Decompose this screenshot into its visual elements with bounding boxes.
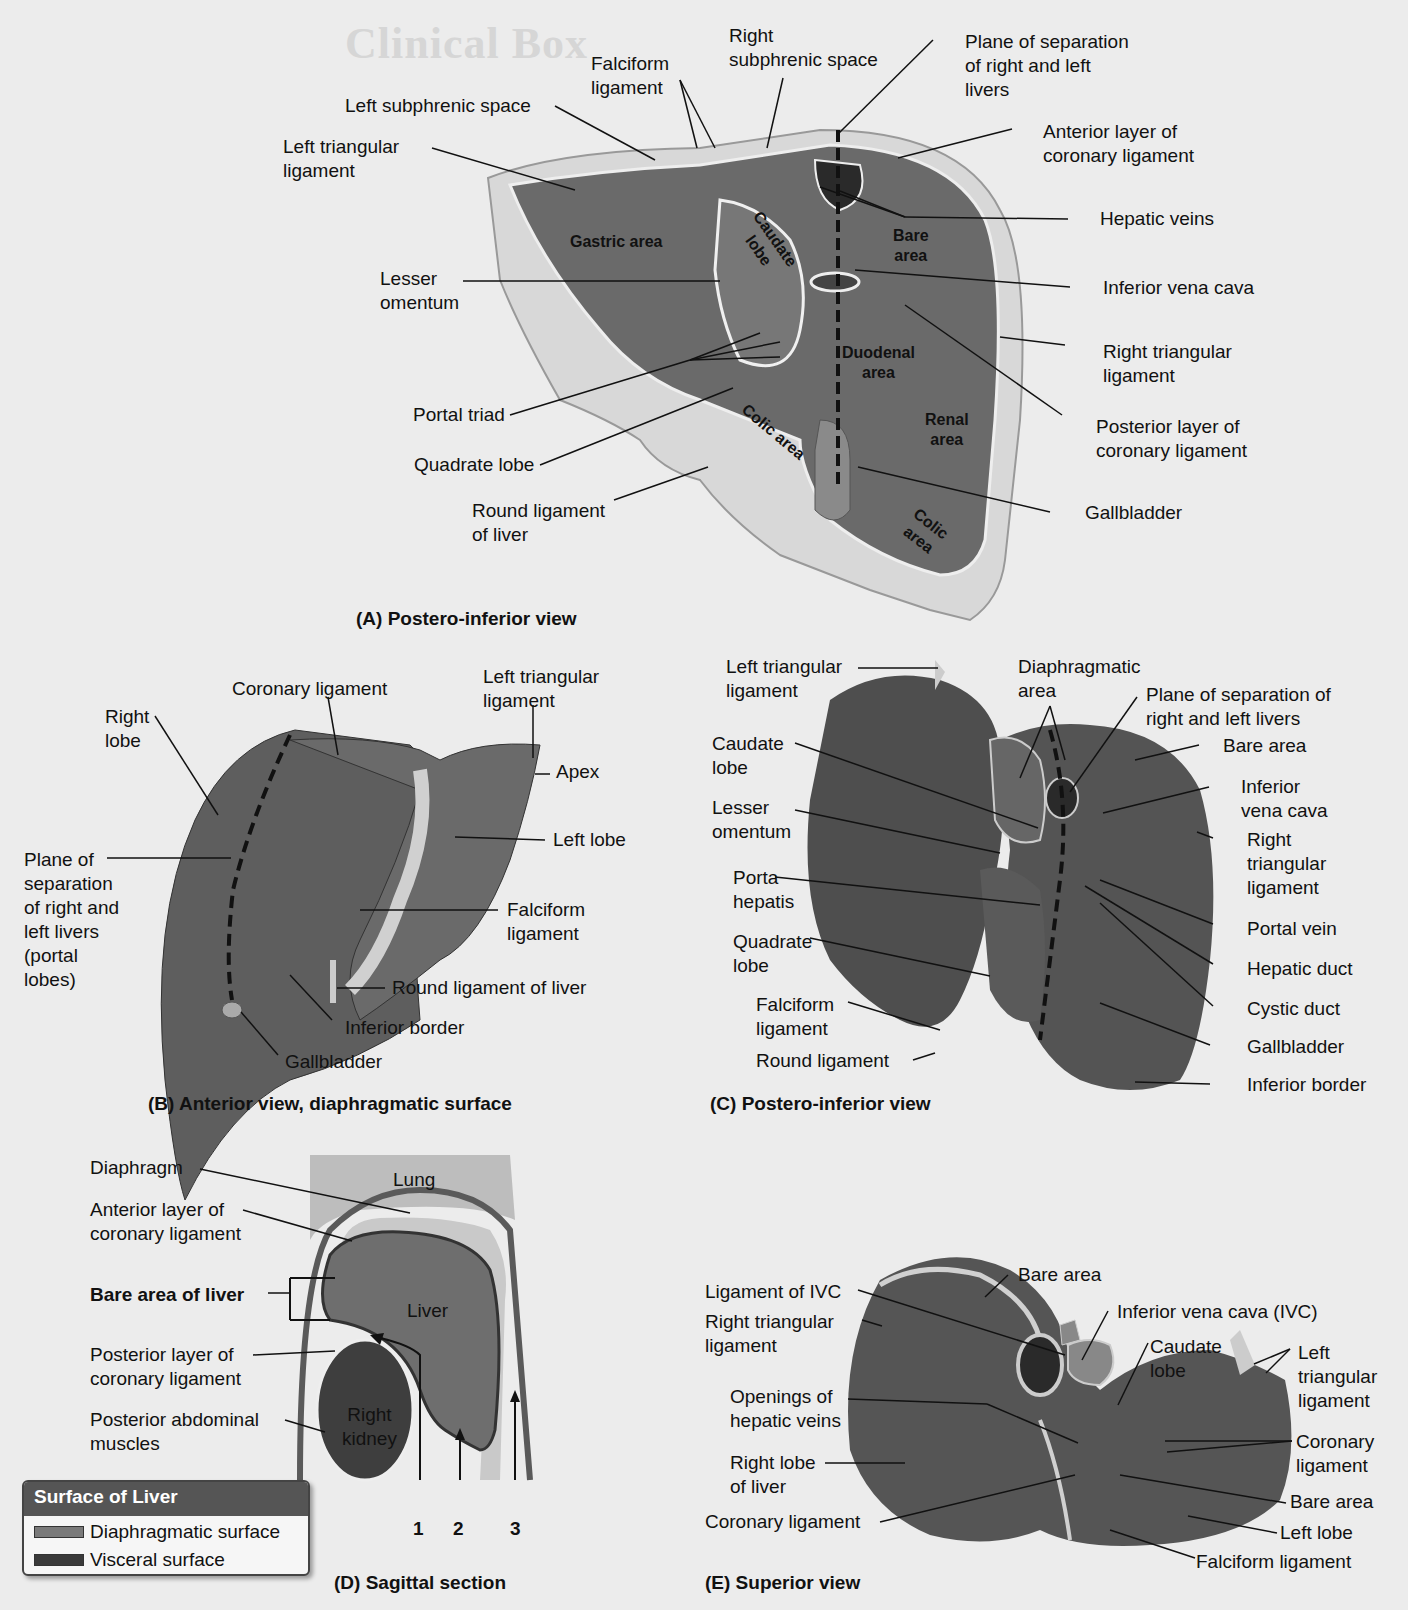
label-d-anterior-layer-coronary: Anterior layer of coronary ligament <box>90 1198 241 1246</box>
legend-title: Surface of Liver <box>24 1482 308 1516</box>
label-a-plane-of-separation: Plane of separation of right and left li… <box>965 30 1129 102</box>
swatch-visceral-icon <box>34 1554 84 1566</box>
label-a-inferior-vena-cava: Inferior vena cava <box>1103 276 1254 300</box>
label-b-inferior-border: Inferior border <box>345 1016 464 1040</box>
legend-item-diaphragmatic: Diaphragmatic surface <box>34 1520 298 1544</box>
label-d-posterior-layer-coronary: Posterior layer of coronary ligament <box>90 1343 241 1391</box>
label-a-round-ligament: Round ligament of liver <box>472 499 605 547</box>
label-e-right-triangular-ligament: Right triangular ligament <box>705 1310 834 1358</box>
label-c-left-triangular-ligament: Left triangular ligament <box>726 655 842 703</box>
label-c-inferior-vena-cava: Inferior vena cava <box>1241 775 1328 823</box>
label-b-gallbladder: Gallbladder <box>285 1050 382 1074</box>
legend-item-visceral: Visceral surface <box>34 1548 298 1572</box>
label-b-left-lobe: Left lobe <box>553 828 626 852</box>
label-b-coronary-ligament: Coronary ligament <box>232 677 387 701</box>
label-c-caudate-lobe: Caudate lobe <box>712 732 784 780</box>
swatch-diaphragmatic-icon <box>34 1526 84 1538</box>
label-c-right-triangular-ligament: Right triangular ligament <box>1247 828 1326 900</box>
label-c-inferior-border: Inferior border <box>1247 1073 1366 1097</box>
label-e-bare-area-bottom: Bare area <box>1290 1490 1373 1514</box>
label-d-bare-area-of-liver: Bare area of liver <box>90 1283 244 1307</box>
label-a-portal-triad: Portal triad <box>413 403 505 427</box>
label-c-round-ligament: Round ligament <box>756 1049 889 1073</box>
label-c-cystic-duct: Cystic duct <box>1247 997 1340 1021</box>
caption-panel-d: (D) Sagittal section <box>334 1572 506 1594</box>
label-b-round-ligament: Round ligament of liver <box>392 976 586 1000</box>
inner-d-liver: Liver <box>407 1299 448 1323</box>
label-b-falciform-ligament: Falciform ligament <box>507 898 585 946</box>
label-e-caudate-lobe: Caudate lobe <box>1150 1335 1222 1383</box>
label-d-posterior-abdominal-muscles: Posterior abdominal muscles <box>90 1408 259 1456</box>
label-e-inferior-vena-cava: Inferior vena cava (IVC) <box>1117 1300 1318 1324</box>
label-b-left-triangular-ligament: Left triangular ligament <box>483 665 599 713</box>
inner-a-gastric-area: Gastric area <box>570 232 663 252</box>
legend-surface-of-liver: Surface of Liver Diaphragmatic surface V… <box>22 1480 310 1576</box>
inner-a-renal-area: Renal area <box>925 410 969 450</box>
inner-a-duodenal-area: Duodenal area <box>842 343 915 383</box>
inner-d-lung: Lung <box>393 1168 435 1192</box>
label-a-left-subphrenic-space: Left subphrenic space <box>345 94 531 118</box>
label-c-lesser-omentum: Lesser omentum <box>712 796 791 844</box>
arrow-number-2: 2 <box>453 1518 464 1540</box>
caption-panel-c: (C) Postero-inferior view <box>710 1093 931 1115</box>
label-a-falciform-ligament: Falciform ligament <box>591 52 669 100</box>
legend-item-label: Diaphragmatic surface <box>90 1521 280 1543</box>
label-a-hepatic-veins: Hepatic veins <box>1100 207 1214 231</box>
label-a-gallbladder: Gallbladder <box>1085 501 1182 525</box>
label-b-plane-of-separation: Plane of separation of right and left li… <box>24 848 119 992</box>
label-e-ligament-of-ivc: Ligament of IVC <box>705 1280 841 1304</box>
label-e-left-lobe: Left lobe <box>1280 1521 1353 1545</box>
label-d-diaphragm: Diaphragm <box>90 1156 183 1180</box>
label-c-falciform-ligament: Falciform ligament <box>756 993 834 1041</box>
panel-b-illustration <box>161 730 540 1200</box>
label-e-coronary-ligament-right: Coronary ligament <box>1296 1430 1374 1478</box>
label-e-openings-hepatic-veins: Openings of hepatic veins <box>730 1385 841 1433</box>
caption-panel-b: (B) Anterior view, diaphragmatic surface <box>148 1093 512 1115</box>
inner-d-right-kidney: Right kidney <box>342 1403 397 1451</box>
label-a-left-triangular-ligament: Left triangular ligament <box>283 135 399 183</box>
label-e-coronary-ligament-left: Coronary ligament <box>705 1510 860 1534</box>
label-e-right-lobe: Right lobe of liver <box>730 1451 816 1499</box>
label-c-quadrate-lobe: Quadrate lobe <box>733 930 812 978</box>
arrow-number-1: 1 <box>413 1518 424 1540</box>
label-b-apex: Apex <box>556 760 599 784</box>
label-e-falciform-ligament: Falciform ligament <box>1196 1550 1351 1574</box>
label-c-bare-area: Bare area <box>1223 734 1306 758</box>
label-c-diaphragmatic-area: Diaphragmatic area <box>1018 655 1141 703</box>
label-e-left-triangular-ligament: Left triangular ligament <box>1298 1341 1377 1413</box>
label-c-portal-vein: Portal vein <box>1247 917 1337 941</box>
inner-a-bare-area: Bare area <box>893 226 929 266</box>
label-a-right-subphrenic-space: Right subphrenic space <box>729 24 878 72</box>
label-a-posterior-layer-coronary: Posterior layer of coronary ligament <box>1096 415 1247 463</box>
label-b-right-lobe: Right lobe <box>105 705 149 753</box>
caption-panel-a: (A) Postero-inferior view <box>356 608 577 630</box>
caption-panel-e: (E) Superior view <box>705 1572 860 1594</box>
arrow-number-3: 3 <box>510 1518 521 1540</box>
label-e-bare-area-top: Bare area <box>1018 1263 1101 1287</box>
label-c-gallbladder: Gallbladder <box>1247 1035 1344 1059</box>
label-a-right-triangular-ligament: Right triangular ligament <box>1103 340 1232 388</box>
label-c-plane-of-separation: Plane of separation of right and left li… <box>1146 683 1331 731</box>
legend-item-label: Visceral surface <box>90 1549 225 1571</box>
label-a-quadrate-lobe: Quadrate lobe <box>414 453 534 477</box>
label-c-porta-hepatis: Porta hepatis <box>733 866 794 914</box>
label-a-anterior-layer-coronary: Anterior layer of coronary ligament <box>1043 120 1194 168</box>
label-a-lesser-omentum: Lesser omentum <box>380 267 459 315</box>
label-c-hepatic-duct: Hepatic duct <box>1247 957 1353 981</box>
